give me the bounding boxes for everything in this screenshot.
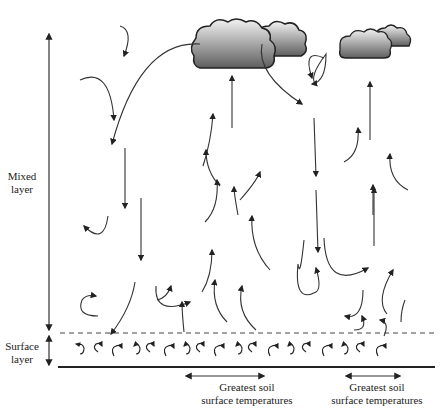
hotspot-2-label-line1: Greatest soil	[312, 381, 442, 394]
mixed-layer-label-line2: layer	[2, 183, 42, 196]
surface-eddies	[76, 343, 386, 356]
airflow-arrows	[80, 26, 408, 336]
small-cumulus-cloud	[340, 25, 411, 58]
hotspot-1-label-line1: Greatest soil	[172, 381, 322, 394]
mixed-layer-label: Mixed layer	[2, 170, 42, 196]
large-cumulus-cloud	[191, 19, 306, 68]
surface-layer-label-line2: layer	[0, 353, 44, 366]
hotspot-2-label-line2: surface temperatures	[312, 394, 442, 407]
surface-layer-label: Surface layer	[0, 340, 44, 366]
hotspot-1-label-line2: surface temperatures	[172, 394, 322, 407]
hotspot-2-label: Greatest soil surface temperatures	[312, 381, 442, 407]
surface-layer-label-line1: Surface	[0, 340, 44, 353]
hotspot-1-label: Greatest soil surface temperatures	[172, 381, 322, 407]
boundary-layer-diagram	[0, 0, 445, 419]
mixed-layer-label-line1: Mixed	[2, 170, 42, 183]
